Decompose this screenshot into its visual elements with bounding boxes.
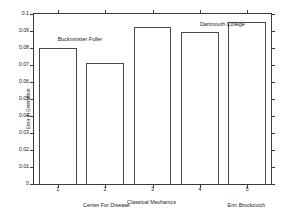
y-tick-mark	[30, 150, 34, 151]
x-tick-label: 1	[56, 187, 59, 192]
annotation-center-for-disease: Center For Disease	[83, 203, 130, 208]
x-tick-label: 3	[151, 187, 154, 192]
y-tick-label: 0.04	[19, 113, 29, 118]
y-tick-label: 0.08	[19, 45, 29, 50]
x-tick-mark-top	[58, 10, 59, 14]
x-tick-mark-top	[105, 10, 106, 14]
x-tick-label: 2	[104, 187, 107, 192]
annotation-erin-brockovich: Erin Brockovich	[228, 203, 265, 208]
annotation-dartmouth-college: Dartmouth College	[200, 22, 245, 27]
y-tick-mark-right	[271, 14, 275, 15]
x-tick-mark-top	[247, 10, 248, 14]
y-tick-mark-right	[271, 116, 275, 117]
y-tick-mark-right	[271, 133, 275, 134]
y-tick-label: 0.02	[19, 147, 29, 152]
y-tick-mark-right	[271, 167, 275, 168]
y-tick-label: 0.1	[22, 11, 29, 16]
y-tick-label: 0.06	[19, 79, 29, 84]
bar-4[interactable]	[181, 32, 219, 184]
y-tick-mark-right	[271, 150, 275, 151]
y-tick-label: 0.09	[19, 28, 29, 33]
y-tick-mark	[30, 133, 34, 134]
x-tick-mark-top	[153, 10, 154, 14]
y-tick-mark-right	[271, 82, 275, 83]
y-tick-mark	[30, 116, 34, 117]
y-tick-mark	[30, 82, 34, 83]
x-tick-mark-top	[200, 10, 201, 14]
y-tick-mark	[30, 14, 34, 15]
annotation-buckminster-fuller: Buckminster Fuller	[58, 37, 103, 42]
y-tick-label: 0	[26, 181, 29, 186]
y-tick-mark	[30, 184, 34, 185]
bar-3[interactable]	[134, 27, 172, 184]
y-tick-mark-right	[271, 48, 275, 49]
y-tick-mark	[30, 99, 34, 100]
x-tick-label: 5	[246, 187, 249, 192]
y-tick-label: 0.05	[19, 96, 29, 101]
plot-area: 00.010.020.030.040.050.060.070.080.090.1…	[33, 13, 272, 185]
y-tick-mark-right	[271, 65, 275, 66]
y-tick-mark-right	[271, 184, 275, 185]
annotation-classical-mechanics: Classical Mechanics	[127, 200, 176, 205]
y-tick-label: 0.07	[19, 62, 29, 67]
figure-canvas: Error in Estimation 00.010.020.030.040.0…	[0, 0, 287, 218]
y-tick-mark	[30, 167, 34, 168]
y-tick-mark	[30, 48, 34, 49]
bar-1[interactable]	[39, 48, 77, 184]
x-tick-label: 4	[198, 187, 201, 192]
y-tick-mark	[30, 65, 34, 66]
bar-2[interactable]	[86, 63, 124, 184]
y-tick-mark-right	[271, 31, 275, 32]
bar-5[interactable]	[228, 22, 266, 184]
y-tick-mark-right	[271, 99, 275, 100]
y-tick-label: 0.03	[19, 130, 29, 135]
y-tick-mark	[30, 31, 34, 32]
y-tick-label: 0.01	[19, 164, 29, 169]
